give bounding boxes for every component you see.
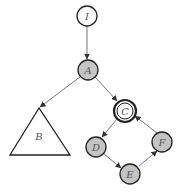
node-b-label: B: [34, 131, 42, 142]
node-d: D: [86, 137, 106, 157]
node-c: C: [114, 100, 136, 122]
edge-d-e: [104, 154, 121, 168]
node-a-label: A: [83, 65, 91, 76]
node-c-label: C: [121, 106, 129, 117]
node-i: I: [77, 6, 97, 26]
edge-e-f: [139, 151, 157, 166]
node-b: B: [10, 108, 70, 155]
graph-diagram: I A B C D E F: [0, 0, 183, 195]
edge-f-c: [135, 116, 157, 133]
node-e-label: E: [125, 169, 134, 180]
node-f-label: F: [158, 137, 167, 148]
node-f: F: [152, 132, 172, 152]
node-a: A: [78, 60, 98, 80]
edge-a-b: [40, 77, 80, 107]
node-e: E: [120, 164, 140, 184]
edge-c-d: [102, 119, 117, 137]
edge-a-c: [95, 77, 117, 101]
node-d-label: D: [91, 142, 100, 153]
